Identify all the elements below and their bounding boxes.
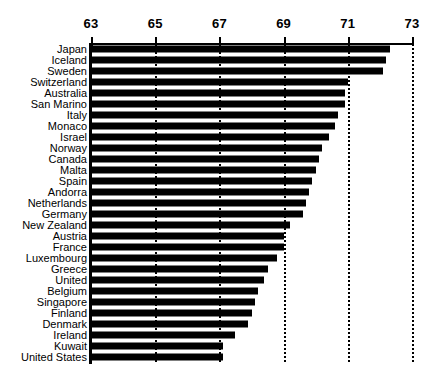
bar[interactable]: [91, 320, 248, 327]
bar[interactable]: [91, 342, 223, 349]
x-tick-label-63: 63: [84, 16, 99, 31]
bar[interactable]: [91, 254, 277, 261]
bar-chart: 636567697173 JapanIcelandSwedenSwitzerla…: [0, 0, 437, 377]
x-tick-label-71: 71: [340, 16, 355, 31]
bar[interactable]: [91, 199, 306, 206]
bar[interactable]: [91, 276, 264, 283]
bar[interactable]: [91, 178, 312, 185]
bar-row[interactable]: San Marino: [0, 99, 437, 110]
bar[interactable]: [91, 287, 258, 294]
x-tick-label-73: 73: [405, 16, 420, 31]
bar[interactable]: [91, 353, 223, 360]
bar[interactable]: [91, 309, 252, 316]
bar[interactable]: [91, 243, 284, 250]
bar[interactable]: [91, 68, 383, 75]
bar-rows: JapanIcelandSwedenSwitzerlandAustraliaSa…: [0, 44, 437, 362]
bar[interactable]: [91, 331, 235, 338]
category-label: United States: [21, 351, 87, 362]
x-tick-label-69: 69: [276, 16, 291, 31]
x-tick-label-65: 65: [148, 16, 163, 31]
bar[interactable]: [91, 221, 290, 228]
bar[interactable]: [91, 167, 316, 174]
bar[interactable]: [91, 156, 319, 163]
bar[interactable]: [91, 265, 268, 272]
bar[interactable]: [91, 232, 284, 239]
bar[interactable]: [91, 189, 309, 196]
bar[interactable]: [91, 46, 390, 53]
bar[interactable]: [91, 79, 348, 86]
bar[interactable]: [91, 101, 345, 108]
x-tick-label-67: 67: [212, 16, 227, 31]
bar-row[interactable]: United States: [0, 351, 437, 362]
x-axis-tick-labels: 636567697173: [0, 16, 437, 36]
bar[interactable]: [91, 145, 322, 152]
bar[interactable]: [91, 210, 303, 217]
bar[interactable]: [91, 57, 386, 64]
bar[interactable]: [91, 90, 345, 97]
bar[interactable]: [91, 298, 255, 305]
bar[interactable]: [91, 112, 338, 119]
bar[interactable]: [91, 123, 335, 130]
y-axis-end-cap: [89, 361, 92, 364]
bar[interactable]: [91, 134, 329, 141]
